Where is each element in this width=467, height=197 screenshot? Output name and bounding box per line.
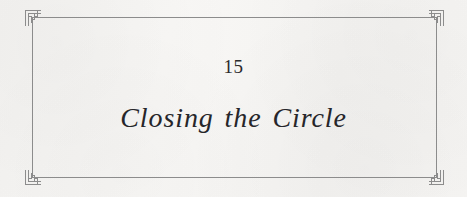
frame-rule-left bbox=[32, 17, 33, 178]
chapter-number: 15 bbox=[0, 57, 467, 76]
frame-rule-bottom bbox=[32, 177, 437, 178]
greek-key-corner-icon-bottom-right bbox=[428, 169, 445, 186]
chapter-title: Closing the Circle bbox=[0, 104, 467, 132]
decorative-frame bbox=[32, 17, 437, 178]
frame-rule-top bbox=[32, 17, 437, 18]
greek-key-corner-icon-top-left bbox=[24, 9, 41, 26]
greek-key-corner-icon-top-right bbox=[428, 9, 445, 26]
greek-key-corner-icon-bottom-left bbox=[24, 169, 41, 186]
frame-rule-right bbox=[436, 17, 437, 178]
chapter-title-page: 15 Closing the Circle bbox=[0, 0, 467, 197]
